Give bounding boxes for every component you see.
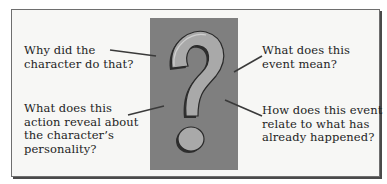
question-line: personality? [24, 143, 138, 157]
question-line: already happened? [262, 131, 382, 145]
question-line: character do that? [24, 58, 134, 72]
connector-bottom-right [225, 100, 262, 116]
question-line: What does this [262, 44, 350, 58]
question-line: How does this event [262, 104, 382, 118]
question-line: Why did the [24, 44, 134, 58]
question-top-left: Why did the character do that? [24, 44, 134, 71]
question-top-right: What does this event mean? [262, 44, 350, 71]
question-line: the character’s [24, 129, 138, 143]
question-line: action reveal about [24, 116, 138, 130]
question-line: event mean? [262, 58, 350, 72]
connector-lines [0, 0, 387, 184]
question-bottom-right: How does this event relate to what has a… [262, 104, 382, 145]
connector-top-right [234, 56, 262, 72]
question-bottom-left: What does this action reveal about the c… [24, 102, 138, 156]
question-line: What does this [24, 102, 138, 116]
question-line: relate to what has [262, 118, 382, 132]
